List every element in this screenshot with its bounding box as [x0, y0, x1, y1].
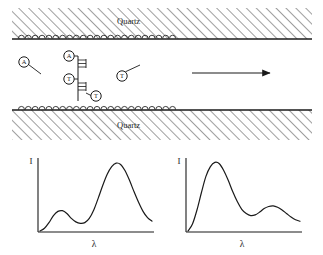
surface-bead: [121, 106, 127, 109]
free-molecule-right-tail: [125, 65, 140, 72]
surface-bead: [53, 106, 59, 109]
duplex-rung-upper: [78, 59, 86, 68]
surface-bead: [73, 106, 79, 109]
surface-bead: [46, 106, 52, 109]
surface-bead: [87, 106, 93, 109]
free-molecule-left: A: [19, 57, 41, 74]
surface-bead: [94, 106, 100, 109]
surface-bead: [115, 106, 121, 109]
scientific-diagram: Quartz Quartz A A: [0, 0, 323, 255]
base-circle-t-duplex-bottom-label: T: [94, 92, 98, 99]
left-chart-spectrum-curve: [40, 163, 152, 231]
duplex-rung-lower: [78, 82, 86, 91]
surface-bead: [18, 106, 24, 109]
surface-bead: [135, 106, 141, 109]
left-chart-y-axis-label: I: [30, 156, 33, 166]
surface-bead: [101, 106, 107, 109]
left-chart-x-axis-label: λ: [92, 239, 97, 249]
base-circle-a-duplex-label: A: [67, 52, 72, 59]
surface-bead: [25, 106, 31, 109]
surface-bead: [163, 106, 169, 109]
bottom-wall-hatch-fill: [12, 110, 312, 140]
free-molecule-right: T: [117, 65, 140, 81]
duplex-connector-bottom: [86, 93, 91, 96]
surface-bead: [39, 106, 45, 109]
surface-bead: [108, 106, 114, 109]
surface-bead: [60, 106, 66, 109]
right-chart-y-axis-label: I: [178, 156, 181, 166]
base-circle-a-free-label: A: [22, 58, 27, 65]
surface-bead: [128, 106, 134, 109]
top-quartz-wall: Quartz: [12, 8, 312, 39]
spectrum-chart-right: I λ: [178, 156, 303, 249]
surface-bead: [32, 106, 38, 109]
surface-bead: [142, 106, 148, 109]
surface-bead: [156, 106, 162, 109]
surface-bead: [149, 106, 155, 109]
spectrum-chart-left: I λ: [30, 156, 155, 249]
free-molecule-left-tail: [29, 65, 41, 74]
right-chart-x-axis-label: λ: [240, 239, 245, 249]
surface-bead: [80, 106, 86, 109]
duplex-molecule: A T T: [64, 51, 101, 101]
top-wall-hatch-fill: [12, 8, 312, 39]
base-circle-t-duplex-mid-label: T: [67, 75, 71, 82]
top-quartz-label: Quartz: [117, 16, 140, 26]
surface-bead: [67, 106, 73, 109]
bottom-quartz-label: Quartz: [117, 120, 140, 130]
surface-bead: [170, 106, 176, 109]
bottom-wall-bead-row: [18, 106, 175, 109]
bottom-quartz-wall: Quartz: [12, 106, 312, 140]
base-circle-t-free-label: T: [120, 72, 124, 79]
figure-root: Quartz Quartz A A: [0, 0, 323, 255]
right-chart-spectrum-curve: [188, 162, 300, 231]
